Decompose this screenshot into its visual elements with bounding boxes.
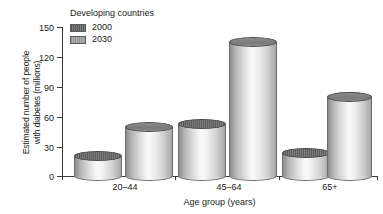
x-group-label-45-64: 45–64	[186, 182, 272, 192]
bar-2030-45-64	[229, 42, 277, 176]
legend-label-2000: 2000	[92, 23, 112, 32]
bar-2000-45-64	[178, 124, 226, 176]
bar-2000-20-44	[74, 156, 122, 176]
cylinder-top	[282, 148, 330, 158]
x-tick-mark-2	[279, 176, 280, 180]
x-tick-mark-left	[62, 176, 63, 180]
legend-swatch-2030-icon	[70, 36, 86, 44]
bar-2030-65-plus	[327, 97, 372, 176]
cylinder-body	[125, 127, 173, 176]
diabetes-bar-chart: Estimated number of people with diabetes…	[0, 0, 383, 214]
y-tick-label-150: 150	[18, 24, 54, 33]
x-tick-mark-1	[175, 176, 176, 180]
cylinder-top	[178, 119, 226, 129]
cylinder-top	[229, 37, 277, 47]
bar-2030-20-44	[125, 127, 173, 176]
legend-swatch-2000-icon	[70, 24, 86, 32]
bar-2000-65-plus	[282, 153, 330, 176]
cylinder-body	[178, 124, 226, 176]
chart-legend: Developing countries 2000 2030	[70, 8, 154, 46]
legend-label-2030: 2030	[92, 35, 112, 44]
cylinder-body	[229, 42, 277, 176]
y-tick-label-120: 120	[18, 54, 54, 63]
cylinder-top	[74, 151, 122, 161]
legend-item-2000: 2000	[70, 22, 154, 33]
y-tick-label-90: 90	[18, 84, 54, 93]
cylinder-top	[125, 122, 173, 132]
y-axis-title: Estimated number of people with diabetes…	[21, 18, 42, 188]
x-group-label-20-44: 20–44	[82, 182, 168, 192]
x-group-label-65-plus: 65+	[287, 182, 373, 192]
cylinder-top	[327, 92, 372, 102]
cylinder-body	[327, 97, 372, 176]
x-axis-title: Age group (years)	[62, 197, 377, 207]
x-tick-mark-right	[377, 176, 378, 180]
y-tick-label-0: 0	[18, 173, 54, 182]
legend-item-2030: 2030	[70, 34, 154, 45]
legend-title: Developing countries	[70, 8, 154, 19]
y-tick-label-60: 60	[18, 114, 54, 123]
y-axis-line	[62, 27, 63, 177]
y-tick-label-30: 30	[18, 144, 54, 153]
